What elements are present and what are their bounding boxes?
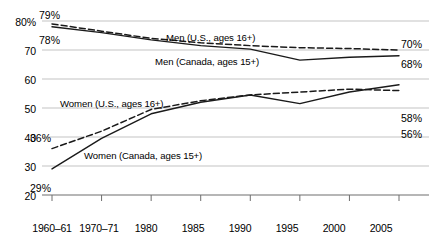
ytick-label-80: 80% [4, 16, 36, 28]
series-label-men-us: Men (U.S., ages 16+) [166, 32, 255, 43]
end-value-women-us: 56% [401, 128, 422, 140]
start-value-men-us: 79% [39, 9, 60, 21]
start-value-men-canada: 78% [39, 34, 60, 46]
line-chart: 80% 70 60 50 40 30 20 1960–61 1970–71 19… [0, 0, 435, 241]
series-label-men-canada: Men (Canada, ages 15+) [155, 56, 259, 67]
ytick-label-50: 50 [4, 103, 36, 115]
xtick-mark-group [52, 195, 399, 201]
series-line-group [52, 24, 399, 169]
end-value-women-canada: 58% [401, 112, 422, 124]
end-value-men-canada: 68% [401, 58, 422, 70]
ytick-label-60: 60 [4, 74, 36, 86]
ytick-label-70: 70 [4, 45, 36, 57]
start-value-women-canada: 29% [30, 182, 51, 194]
series-label-women-canada: Women (Canada, ages 15+) [84, 150, 202, 161]
start-value-women-us: 36% [30, 132, 51, 144]
xtick-label-2005: 2005 [348, 222, 414, 234]
ytick-label-30: 30 [4, 161, 36, 173]
end-value-men-us: 70% [401, 38, 422, 50]
series-label-women-us: Women (U.S., ages 16+) [60, 98, 163, 109]
